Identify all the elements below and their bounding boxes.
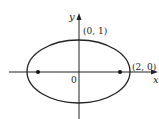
x-axis-label: x (153, 74, 159, 85)
y-axis-arrow-icon (77, 13, 82, 20)
origin-label: 0 (71, 75, 77, 85)
focus-point-left (36, 70, 40, 74)
y-axis-label: y (68, 11, 75, 22)
focus-point-right (118, 70, 122, 74)
point-label-top: (0, 1) (83, 26, 107, 36)
point-label-right: (2, 0) (132, 62, 156, 72)
ellipse-diagram: y (0, 1) (2, 0) 0 x (0, 0, 159, 119)
